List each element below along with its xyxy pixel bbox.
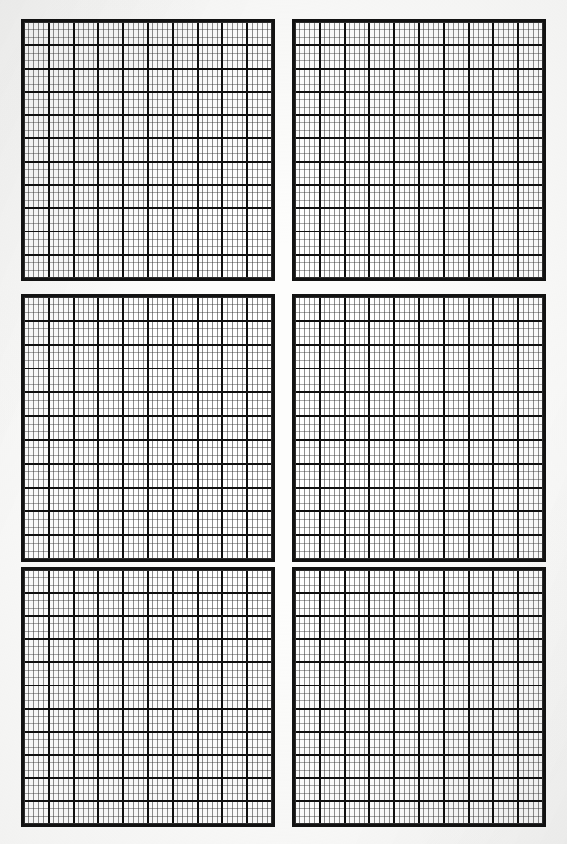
- grid-plate: [295, 570, 543, 824]
- grid-plate: [24, 22, 272, 278]
- grid-plate: [295, 297, 543, 559]
- panel-bottom-left[interactable]: [21, 567, 275, 827]
- major-horizontal-rules: [295, 570, 543, 824]
- panel-middle-right[interactable]: [292, 294, 546, 562]
- grid-plate: [24, 297, 272, 559]
- major-horizontal-rules: [295, 22, 543, 278]
- panel-bottom-right[interactable]: [292, 567, 546, 827]
- grid-plate: [24, 570, 272, 824]
- panel-middle-left[interactable]: [21, 294, 275, 562]
- major-horizontal-rules: [24, 22, 272, 278]
- major-horizontal-rules: [24, 570, 272, 824]
- panel-top-left[interactable]: [21, 19, 275, 281]
- panel-top-right[interactable]: [292, 19, 546, 281]
- major-horizontal-rules: [24, 297, 272, 559]
- panel-grid: [0, 0, 567, 844]
- major-horizontal-rules: [295, 297, 543, 559]
- grid-plate: [295, 22, 543, 278]
- graph-paper-page: [0, 0, 567, 844]
